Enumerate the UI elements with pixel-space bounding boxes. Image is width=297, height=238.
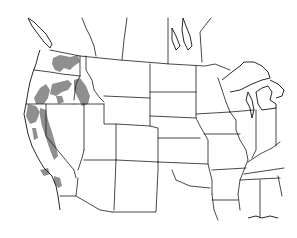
range-map xyxy=(0,0,297,238)
